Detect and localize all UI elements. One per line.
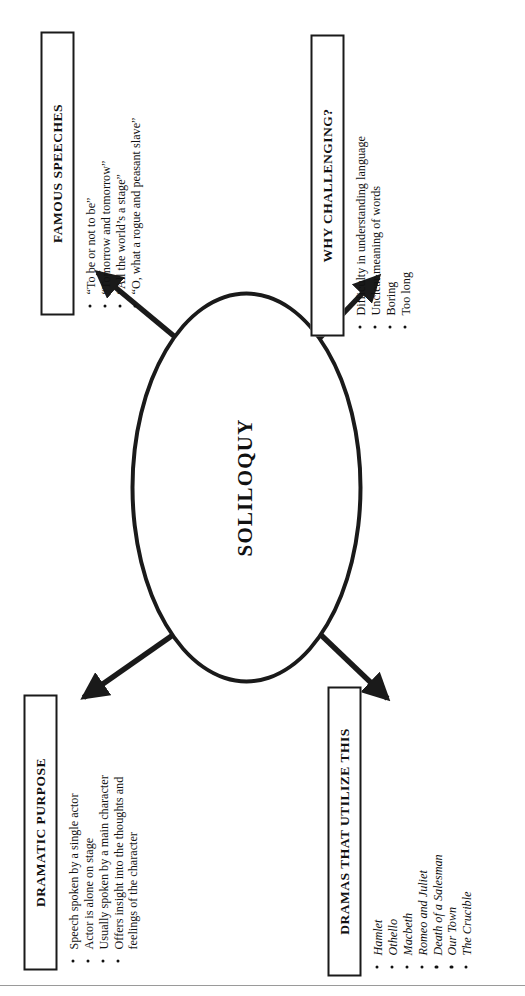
bullet-icon — [405, 965, 408, 968]
list-item: “All the world’s a stage” — [113, 84, 127, 309]
bullet-icon — [420, 965, 423, 968]
list-item-text: “All the world’s a stage” — [113, 174, 127, 294]
list-item-text: Usually spoken by a main character — [96, 775, 110, 949]
list-item: Usually spoken by a main character — [96, 739, 110, 964]
rotated-diagram-canvas: SOLILOQUY DRAMATIC PURPOSE Speech spoken… — [5, 8, 520, 988]
list-item: “O, what a rogue and peasant slave” — [128, 84, 142, 309]
list-item-text: The Crucible — [459, 891, 473, 955]
central-node-soliloquy[interactable]: SOLILOQUY — [130, 291, 362, 683]
list-item: Boring — [383, 105, 397, 330]
bullet-icon — [86, 959, 89, 962]
list-item: Offers insight into the thoughts and fee… — [111, 739, 140, 964]
bullet-icon — [101, 959, 104, 962]
node-dramas-title: DRAMAS THAT UTILIZE THIS — [336, 728, 352, 934]
list-item: Actor is alone on stage — [81, 739, 95, 964]
bullet-icon — [449, 965, 452, 968]
node-dramatic-purpose-list: Speech spoken by a single actor Actor is… — [66, 694, 139, 964]
node-why-challenging-list: Difficulty in understanding language Unc… — [353, 34, 412, 330]
bullet-icon — [133, 304, 136, 307]
list-item: Macbeth — [400, 745, 414, 970]
node-why-challenging[interactable]: WHY CHALLENGING? Difficulty in understan… — [310, 34, 413, 336]
list-item: Hamlet — [370, 745, 384, 970]
bullet-icon — [390, 965, 393, 968]
bullet-icon — [358, 325, 361, 328]
list-item: Othello — [385, 745, 399, 970]
list-item-text: Offers insight into the thoughts and fee… — [111, 776, 139, 949]
bullet-icon — [116, 959, 119, 962]
list-item: Difficulty in understanding language — [353, 105, 367, 330]
list-item: “Tomorrow and tomorrow” — [98, 84, 112, 309]
node-famous-speeches-title: FAMOUS SPEECHES — [49, 104, 65, 243]
list-item-text: Actor is alone on stage — [81, 837, 95, 949]
list-item-text: Hamlet — [370, 919, 384, 955]
list-item-text: Death of a Salesman — [430, 854, 444, 955]
bullet-icon — [464, 965, 467, 968]
bullet-icon — [375, 965, 378, 968]
node-dramas-box[interactable]: DRAMAS THAT UTILIZE THIS — [327, 686, 361, 976]
node-why-challenging-title: WHY CHALLENGING? — [319, 108, 335, 262]
node-why-challenging-box[interactable]: WHY CHALLENGING? — [310, 34, 344, 336]
list-item-text: Our Town — [444, 906, 458, 955]
list-item-text: “To be or not to be” — [83, 197, 97, 294]
bullet-icon — [403, 325, 406, 328]
list-item-text: Too long — [398, 272, 412, 316]
list-item-text: Romeo and Juliet — [415, 870, 429, 955]
bullet-icon — [103, 304, 106, 307]
list-item-text: Speech spoken by a single actor — [66, 793, 80, 949]
list-item: Too long — [398, 105, 412, 330]
arrow-to-dramatic-purpose — [83, 632, 176, 697]
node-dramas-that-utilize-this[interactable]: DRAMAS THAT UTILIZE THIS Hamlet Othello … — [327, 686, 474, 976]
diagram-page: SOLILOQUY DRAMATIC PURPOSE Speech spoken… — [0, 0, 525, 996]
node-famous-speeches-list: “To be or not to be” “Tomorrow and tomor… — [83, 31, 142, 309]
central-node-label: SOLILOQUY — [232, 295, 257, 679]
bullet-icon — [118, 304, 121, 307]
node-famous-speeches-box[interactable]: FAMOUS SPEECHES — [40, 31, 74, 315]
page-bottom-rule — [0, 985, 525, 986]
list-item-text: “Tomorrow and tomorrow” — [98, 160, 112, 294]
node-dramas-list: Hamlet Othello Macbeth Romeo and Juliet … — [370, 686, 474, 970]
node-famous-speeches[interactable]: FAMOUS SPEECHES “To be or not to be” “To… — [40, 31, 143, 315]
bullet-icon — [434, 965, 437, 968]
bullet-icon — [88, 304, 91, 307]
list-item: Unclear meaning of words — [368, 105, 382, 330]
diagram-canvas: SOLILOQUY DRAMATIC PURPOSE Speech spoken… — [5, 8, 520, 988]
list-item-text: Boring — [383, 281, 397, 315]
list-item-text: Unclear meaning of words — [368, 185, 382, 315]
list-item-text: Macbeth — [400, 912, 414, 955]
list-item: Romeo and Juliet — [415, 745, 429, 970]
node-dramatic-purpose-title: DRAMATIC PURPOSE — [32, 757, 48, 906]
list-item: Our Town — [444, 745, 458, 970]
bullet-icon — [388, 325, 391, 328]
list-item: The Crucible — [459, 745, 473, 970]
node-dramatic-purpose[interactable]: DRAMATIC PURPOSE Speech spoken by a sing… — [23, 694, 140, 970]
node-dramatic-purpose-box[interactable]: DRAMATIC PURPOSE — [23, 694, 57, 970]
list-item: “To be or not to be” — [83, 84, 97, 309]
bullet-icon — [373, 325, 376, 328]
list-item-text: Othello — [385, 918, 399, 955]
list-item-text: Difficulty in understanding language — [353, 136, 367, 316]
bullet-icon — [71, 959, 74, 962]
list-item: Speech spoken by a single actor — [66, 739, 80, 964]
list-item: Death of a Salesman — [430, 745, 444, 970]
list-item-text: “O, what a rogue and peasant slave” — [128, 117, 142, 294]
